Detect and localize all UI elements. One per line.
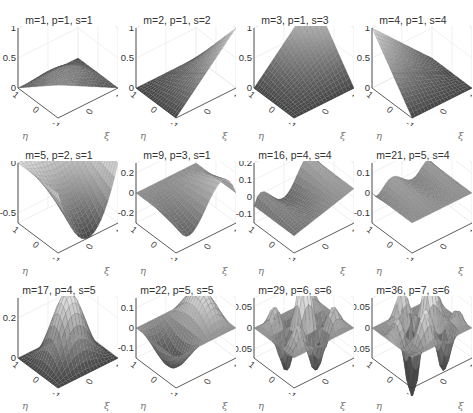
horizontal-tick-label: -1 <box>168 118 181 126</box>
horizontal-tick-label: 1 <box>468 227 472 236</box>
horizontal-tick-label: 0 <box>31 239 41 250</box>
horizontal-tick-label: 0 <box>438 377 449 386</box>
xi-axis-label: ξ <box>340 400 346 411</box>
horizontal-tick-label: 0 <box>385 239 395 250</box>
surface-plot: -0.100.10.210-101 <box>236 161 354 261</box>
horizontal-tick-label: 0 <box>149 239 159 250</box>
z-tick-label: 0.1 <box>239 174 252 185</box>
horizontal-tick-label: 0 <box>202 107 213 116</box>
surface-panel: m=16, p=4, s=4-0.100.10.210-101ηξ <box>236 139 354 275</box>
z-tick-label: 0 <box>11 161 16 168</box>
z-tick-label: 0 <box>129 322 134 333</box>
horizontal-tick-label: 1 <box>365 359 375 370</box>
panel-title: m=1, p=1, s=1 <box>0 14 118 26</box>
horizontal-tick-label: 1 <box>365 224 375 235</box>
z-tick-label: 1 <box>129 26 134 33</box>
xi-axis-label: ξ <box>104 400 110 411</box>
horizontal-tick-label: -1 <box>50 388 63 396</box>
panel-title: m=21, p=5, s=4 <box>354 149 472 161</box>
horizontal-tick-label: 1 <box>247 224 257 235</box>
surface-plot: -0.5010-101 <box>0 161 118 261</box>
horizontal-tick-label: 1 <box>11 224 21 235</box>
eta-axis-label: η <box>376 400 382 411</box>
panel-title: m=17, p=4, s=5 <box>0 284 118 296</box>
surface-panel: m=1, p=1, s=100.5110-101ηξ <box>0 4 118 140</box>
xi-axis-label: ξ <box>458 400 464 411</box>
horizontal-tick-label: 0 <box>202 377 213 386</box>
eta-axis-label: η <box>22 400 28 411</box>
horizontal-tick-label: 1 <box>468 362 472 371</box>
surface-plot-grid: m=1, p=1, s=100.5110-101ηξm=2, p=1, s=20… <box>0 4 473 413</box>
horizontal-tick-label: 0 <box>320 242 331 251</box>
horizontal-tick-label: 0 <box>320 107 331 116</box>
horizontal-tick-label: -1 <box>168 253 181 261</box>
surface-panel: m=21, p=5, s=4-0.100.110-101ηξ <box>354 139 472 275</box>
z-tick-label: -0.5 <box>0 207 16 218</box>
horizontal-tick-label: 0 <box>149 374 159 385</box>
horizontal-tick-label: 0 <box>267 104 277 115</box>
horizontal-tick-label: 0 <box>267 374 277 385</box>
z-tick-label: 0 <box>365 322 370 333</box>
horizontal-tick-label: 0 <box>149 104 159 115</box>
horizontal-tick-label: 1 <box>247 359 257 370</box>
horizontal-tick-label: 0 <box>385 374 395 385</box>
horizontal-tick-label: 0 <box>31 374 41 385</box>
z-tick-label: 0.5 <box>121 52 134 63</box>
z-tick-label: 0 <box>365 187 370 198</box>
panel-title: m=5, p=2, s=1 <box>0 149 118 161</box>
horizontal-tick-label: -1 <box>404 253 417 261</box>
surface-panel: m=4, p=1, s=400.5110-101ηξ <box>354 4 472 140</box>
z-tick-label: 0.2 <box>239 161 252 168</box>
horizontal-tick-label: -1 <box>50 253 63 261</box>
panel-title: m=16, p=4, s=4 <box>236 149 354 161</box>
surface-panel: m=36, p=7, s=6-0.0500.0510-101ηξ <box>354 274 472 410</box>
surface-plot: -0.200.210-101 <box>118 161 236 261</box>
horizontal-tick-label: 0 <box>267 239 277 250</box>
surface-panel: m=17, p=4, s=500.210-101ηξ <box>0 274 118 410</box>
horizontal-tick-label: 0 <box>438 242 449 251</box>
horizontal-tick-label: -1 <box>286 118 299 126</box>
z-tick-label: 0.5 <box>239 52 252 63</box>
horizontal-tick-label: -1 <box>168 388 181 396</box>
xi-axis-label: ξ <box>222 400 228 411</box>
horizontal-tick-label: 0 <box>31 104 41 115</box>
z-tick-label: 0 <box>129 187 134 198</box>
horizontal-tick-label: 0 <box>202 242 213 251</box>
panel-title: m=22, p=5, s=5 <box>118 284 236 296</box>
surface-panel: m=2, p=1, s=200.5110-101ηξ <box>118 4 236 140</box>
horizontal-tick-label: -1 <box>50 118 63 126</box>
surface-plot: 00.5110-101 <box>236 26 354 126</box>
horizontal-tick-label: 0 <box>84 242 95 251</box>
eta-axis-label: η <box>258 400 264 411</box>
surface-panel: m=3, p=1, s=300.5110-101ηξ <box>236 4 354 140</box>
z-tick-label: -0.05 <box>236 343 252 354</box>
z-tick-label: -0.1 <box>354 207 370 218</box>
surface-panel: m=22, p=5, s=5-0.100.110-101ηξ <box>118 274 236 410</box>
panel-title: m=29, p=6, s=6 <box>236 284 354 296</box>
eta-axis-label: η <box>140 400 146 411</box>
surface-plot: 00.5110-101 <box>118 26 236 126</box>
z-tick-label: -0.1 <box>118 342 134 353</box>
horizontal-tick-label: 1 <box>468 92 472 101</box>
z-tick-label: 1 <box>11 26 16 33</box>
z-tick-label: -0.05 <box>354 343 370 354</box>
z-tick-label: 1 <box>247 26 252 33</box>
horizontal-tick-label: 0 <box>84 377 95 386</box>
surface-plot: 00.210-101 <box>0 296 118 396</box>
panel-title: m=2, p=1, s=2 <box>118 14 236 26</box>
horizontal-tick-label: 0 <box>320 377 331 386</box>
horizontal-tick-label: 0 <box>385 104 395 115</box>
surface-plot: -0.0500.0510-101 <box>236 296 354 396</box>
surface-plot: -0.0500.0510-101 <box>354 296 472 396</box>
z-tick-label: 0 <box>247 191 252 202</box>
z-tick-label: -0.2 <box>118 207 134 218</box>
z-tick-label: 0.05 <box>236 301 252 312</box>
surface-panel: m=5, p=2, s=1-0.5010-101ηξ <box>0 139 118 275</box>
z-tick-label: 0.1 <box>121 302 134 313</box>
panel-title: m=4, p=1, s=4 <box>354 14 472 26</box>
surface-plot: -0.100.110-101 <box>354 161 472 261</box>
panel-title: m=3, p=1, s=3 <box>236 14 354 26</box>
horizontal-tick-label: 1 <box>129 224 139 235</box>
surface-plot: 00.5110-101 <box>0 26 118 126</box>
surface-plot: -0.100.110-101 <box>118 296 236 396</box>
